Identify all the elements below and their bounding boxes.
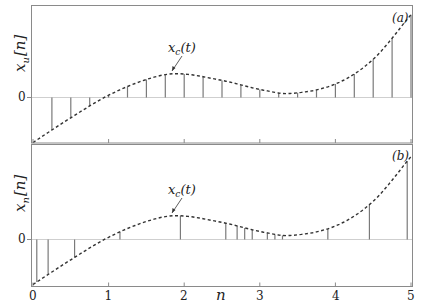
stem-plot-figure: (a) 0 xu[n] xc(t) (b) 0 xn[n] xc(t) 0 1 …: [0, 0, 423, 305]
annot-b-arg: (t): [180, 182, 195, 197]
ylabel-b-arg: [n]: [11, 175, 29, 197]
panel-a-frame: [32, 6, 413, 144]
panel-a-ylabel: xu[n]: [11, 35, 31, 72]
svg-text:xc(t): xc(t): [168, 182, 196, 199]
xtick-label-3: 3: [256, 289, 264, 303]
ylabel-a-arg: [n]: [11, 35, 29, 57]
ylabel-a-sub: u: [20, 57, 31, 63]
xtick-label-4: 4: [332, 289, 340, 303]
xtick-label-0: 0: [29, 289, 37, 303]
panel-b-zero-label: 0: [18, 232, 26, 246]
xtick-label-1: 1: [105, 289, 113, 303]
panel-b-annotation: xc(t): [168, 182, 196, 213]
panel-b-ylabel: xn[n]: [11, 175, 31, 212]
svg-text:xu[n]: xu[n]: [11, 35, 31, 72]
panel-b-stems: [37, 161, 407, 282]
x-axis-ticks: [33, 139, 411, 287]
panel-a: (a) 0 xu[n] xc(t): [11, 6, 413, 144]
panel-b: (b) 0 xn[n] xc(t) 0 1 2 3 4 5 n: [11, 139, 415, 304]
panel-a-zero-label: 0: [18, 90, 26, 104]
panel-b-label: (b): [392, 149, 409, 163]
panel-a-annotation: xc(t): [168, 40, 196, 71]
xtick-label-5: 5: [407, 289, 415, 303]
svg-text:xc(t): xc(t): [168, 40, 196, 57]
annot-a-arg: (t): [180, 40, 195, 55]
panel-a-label: (a): [392, 11, 409, 25]
panel-b-frame: [32, 145, 413, 287]
ylabel-b-sub: n: [20, 197, 31, 203]
panel-b-curve-xc: [33, 157, 411, 285]
xtick-label-2: 2: [180, 289, 188, 303]
svg-text:xn[n]: xn[n]: [11, 175, 31, 212]
x-axis-label: n: [216, 286, 226, 304]
